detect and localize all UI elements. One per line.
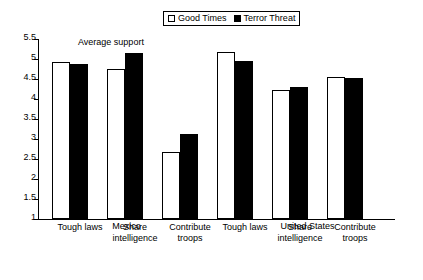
bar — [217, 52, 235, 219]
filled-square-icon — [234, 15, 241, 22]
bar — [327, 77, 345, 219]
y-tick-label: 5.5 — [23, 33, 36, 42]
y-tick-label: 4.5 — [23, 73, 36, 82]
legend-label-terror-threat: Terror Threat — [244, 14, 296, 23]
bar — [235, 61, 253, 219]
bar — [107, 69, 125, 219]
y-tick-label: 2.5 — [23, 153, 36, 162]
y-tick-label: 4 — [31, 93, 36, 102]
group-label: United States — [215, 221, 400, 231]
y-tick-label: 3 — [31, 133, 36, 142]
bar — [180, 134, 198, 219]
y-tick-label: 1.5 — [23, 193, 36, 202]
hollow-square-icon — [168, 15, 175, 22]
legend-item-terror-threat: Terror Threat — [234, 14, 296, 23]
bar — [70, 64, 88, 219]
bar — [125, 53, 143, 219]
plot-area: Average support 11.522.533.544.555.5 Tou… — [38, 39, 395, 219]
legend-item-good-times: Good Times — [168, 14, 227, 23]
bar — [162, 152, 180, 219]
y-tick-label: 1 — [31, 213, 36, 222]
y-tick-label: 2 — [31, 173, 36, 182]
legend-label-good-times: Good Times — [178, 14, 227, 23]
chart-legend: Good Times Terror Threat — [163, 11, 300, 26]
bar-chart-figure: Good Times Terror Threat Average support… — [0, 0, 423, 280]
y-tick-label: 3.5 — [23, 113, 36, 122]
axis-note-label: Average support — [78, 37, 144, 47]
group-label: Mexico — [38, 221, 215, 231]
bar — [345, 78, 363, 219]
y-axis-line — [38, 39, 39, 220]
bar — [52, 62, 70, 219]
x-axis-line — [38, 219, 395, 220]
y-tick-label: 5 — [31, 53, 36, 62]
bar — [272, 90, 290, 219]
bar — [290, 87, 308, 219]
